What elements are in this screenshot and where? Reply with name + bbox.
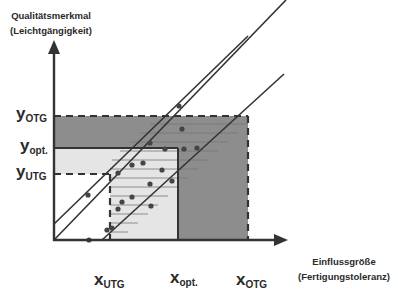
white-region: [54, 174, 110, 240]
x-axis-title: Einflussgröße (Fertigungstoleranz): [292, 254, 396, 284]
y-axis-title: Qualitätsmerkmal (Leichtgängigkeit): [6, 8, 96, 38]
y-tick-opt: yopt.: [20, 136, 48, 156]
x-tick-opt: xopt.: [170, 268, 198, 288]
x-axis-arrow-icon: [274, 234, 288, 246]
y-tick-utg: yUTG: [16, 162, 47, 182]
x-tick-otg: xOTG: [236, 270, 267, 290]
y-tick-otg: yOTG: [16, 104, 47, 124]
y-axis-arrow-icon: [48, 40, 60, 54]
y-axis-title-line2: (Leichtgängigkeit): [6, 23, 96, 38]
x-axis-title-line1: Einflussgröße: [292, 254, 396, 269]
x-tick-utg: xUTG: [94, 270, 125, 290]
x-axis-title-line2: (Fertigungstoleranz): [292, 269, 396, 284]
y-axis-title-line1: Qualitätsmerkmal: [6, 8, 96, 23]
